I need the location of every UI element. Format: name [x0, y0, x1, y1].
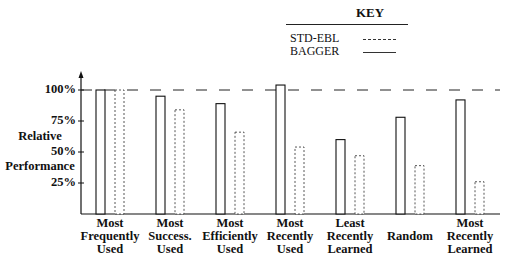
x-category-label: MostRecentlyLearned: [430, 217, 510, 256]
bar-bagger: [336, 140, 345, 214]
y-axis-arrow-icon: [79, 71, 84, 78]
bar-std-ebl: [175, 110, 184, 214]
bar-bagger: [96, 90, 105, 214]
bar-std-ebl: [235, 132, 244, 214]
bar-std-ebl: [475, 182, 484, 214]
bar-bagger: [456, 100, 465, 214]
bar-bagger: [216, 104, 225, 214]
bar-std-ebl: [355, 156, 364, 214]
bar-std-ebl: [415, 166, 424, 214]
bar-bagger: [156, 96, 165, 214]
x-category-label-line: Learned: [430, 243, 510, 256]
bar-std-ebl: [115, 90, 124, 214]
bar-bagger: [396, 117, 405, 214]
bar-bagger: [276, 85, 285, 214]
bar-std-ebl: [295, 147, 304, 214]
